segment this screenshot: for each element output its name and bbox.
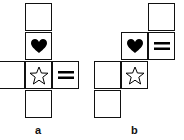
face-blank	[0, 61, 25, 89]
face-blank	[148, 3, 175, 31]
face-equals	[52, 61, 79, 89]
face-blank	[25, 90, 52, 118]
face-blank	[25, 3, 52, 31]
figure-label-b: b	[131, 124, 138, 136]
face-star	[25, 61, 52, 89]
face-blank	[94, 61, 121, 89]
face-heart	[25, 32, 52, 60]
figure-label-a: a	[35, 124, 41, 136]
star-icon	[125, 66, 145, 85]
heart-icon	[31, 39, 47, 54]
face-equals	[148, 32, 175, 60]
heart-icon	[127, 39, 143, 54]
equals-icon	[154, 41, 170, 51]
face-blank	[94, 90, 121, 118]
face-star	[121, 61, 148, 89]
star-icon	[29, 66, 49, 85]
equals-icon	[58, 70, 74, 80]
face-heart	[121, 32, 148, 60]
